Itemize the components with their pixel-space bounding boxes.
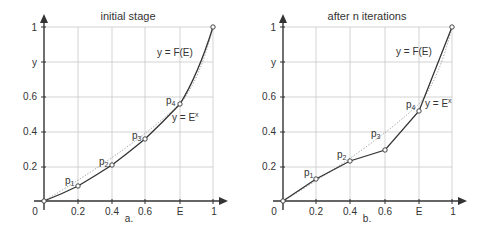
diagram-canvas: initial stage a. 0 0.2 0.4 0.6 E 1 0.2 0… bbox=[0, 0, 486, 234]
x-axis-arrow-b bbox=[458, 197, 467, 205]
point-label-p4-b: p4 bbox=[406, 99, 416, 111]
point-origin-a bbox=[42, 199, 46, 203]
y-tick-label: y bbox=[271, 57, 276, 68]
panel-title-a: initial stage bbox=[100, 10, 155, 22]
origin-label-b: 0 bbox=[271, 206, 277, 217]
panel-b: after n iterations b. 0 0.2 0.4 0.6 E 1 … bbox=[262, 10, 467, 224]
point-p4-b bbox=[417, 109, 421, 113]
point-p2-a bbox=[110, 163, 114, 167]
y-tick-label: 0.4 bbox=[262, 126, 276, 137]
x-tick-label: 0.6 bbox=[378, 206, 392, 217]
y-tick-label: 0.2 bbox=[262, 161, 276, 172]
y-axis-arrow-b bbox=[279, 14, 287, 23]
point-end-a bbox=[211, 25, 215, 29]
x-tick-label: 1 bbox=[450, 206, 456, 217]
x-tick-label: 0.6 bbox=[138, 206, 152, 217]
panel-a: initial stage a. 0 0.2 0.4 0.6 E 1 0.2 0… bbox=[23, 10, 228, 224]
x-tick-label: 0.4 bbox=[105, 206, 119, 217]
x-axis-arrow-a bbox=[219, 197, 228, 205]
point-p3-b bbox=[383, 148, 387, 152]
curve-label-a: y = F(E) bbox=[157, 47, 193, 58]
ref-label-a: y = Ex bbox=[172, 111, 199, 123]
x-tick-label: E bbox=[177, 206, 184, 217]
point-p1-a bbox=[76, 184, 80, 188]
y-axis-arrow-a bbox=[40, 14, 48, 23]
point-label-p1-b: p1 bbox=[304, 167, 314, 179]
y-tick-label: 0.6 bbox=[23, 91, 37, 102]
point-label-p2-a: p2 bbox=[99, 156, 109, 168]
y-tick-label: 0.2 bbox=[23, 161, 37, 172]
point-p3-a bbox=[143, 137, 147, 141]
y-tick-label: y bbox=[32, 57, 37, 68]
curve-label-b: y = F(E) bbox=[396, 46, 432, 57]
origin-label-a: 0 bbox=[32, 206, 38, 217]
x-tick-label: 1 bbox=[211, 206, 217, 217]
y-tick-label: 1 bbox=[270, 22, 276, 33]
x-tick-label: 0.2 bbox=[71, 206, 85, 217]
point-origin-b bbox=[281, 199, 285, 203]
y-tick-label: 0.4 bbox=[23, 126, 37, 137]
point-p2-b bbox=[348, 159, 352, 163]
ref-label-b: y = Ex bbox=[425, 97, 452, 109]
point-label-p2-b: p2 bbox=[337, 149, 347, 161]
x-tick-label: 0.4 bbox=[343, 206, 357, 217]
y-tick-label: 0.6 bbox=[262, 91, 276, 102]
caption-a: a. bbox=[125, 213, 133, 224]
caption-b: b. bbox=[363, 213, 371, 224]
point-p4-a bbox=[178, 102, 182, 106]
x-tick-label: 0.2 bbox=[309, 206, 323, 217]
point-end-b bbox=[450, 25, 454, 29]
point-label-p3-b: p3 bbox=[371, 128, 381, 140]
y-tick-label: 1 bbox=[31, 22, 37, 33]
x-tick-label: E bbox=[416, 206, 423, 217]
point-p1-b bbox=[314, 177, 318, 181]
panel-title-b: after n iterations bbox=[328, 10, 407, 22]
point-label-p1-a: p1 bbox=[65, 175, 75, 187]
